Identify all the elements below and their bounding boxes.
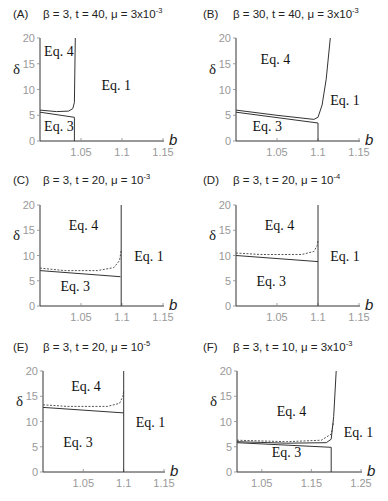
region-label: Eq. 1 — [136, 415, 166, 430]
chart-panel-d: 051015201.051.11.15bδEq. 4Eq. 1Eq. 3 — [209, 199, 373, 323]
series-boundary-dashed — [237, 422, 334, 442]
chart-panel-b: 051015201.051.11.15bδEq. 4Eq. 1Eq. 3 — [209, 32, 373, 158]
y-tick-label: 20 — [26, 365, 38, 377]
y-axis-label: δ — [210, 393, 217, 409]
x-tick-label: 1.1 — [114, 311, 129, 323]
region-label: Eq. 1 — [102, 78, 132, 93]
y-tick-label: 5 — [32, 441, 38, 453]
y-axis-label: δ — [16, 393, 23, 409]
x-tick-label: 1.05 — [266, 311, 287, 323]
chart-panel-c: 051015201.051.11.15bδEq. 4Eq. 1Eq. 3 — [13, 199, 177, 323]
y-tick-label: 0 — [226, 466, 232, 478]
x-tick-label: 1.05 — [70, 311, 91, 323]
y-tick-label: 15 — [26, 390, 38, 402]
y-axis-label: δ — [209, 227, 216, 243]
y-tick-label: 15 — [220, 390, 232, 402]
y-tick-label: 20 — [23, 199, 35, 211]
series-boundary-solid — [40, 271, 120, 277]
x-axis-label: b — [169, 131, 177, 148]
region-label: Eq. 3 — [257, 274, 287, 289]
series-boundary-solid — [43, 407, 124, 413]
chart-panel-f: 051015201.051.151.25bδEq. 4Eq. 1Eq. 3 — [210, 365, 375, 489]
region-label: Eq. 3 — [252, 119, 282, 134]
region-label: Eq. 4 — [277, 404, 307, 419]
region-label: Eq. 1 — [330, 93, 360, 108]
series-boundary-dashed — [236, 240, 318, 254]
x-tick-label: 1.15 — [301, 477, 322, 489]
x-tick-label: 1.05 — [73, 477, 94, 489]
y-tick-label: 10 — [219, 250, 231, 262]
region-label: Eq. 3 — [61, 279, 91, 294]
y-tick-label: 20 — [219, 32, 231, 44]
y-tick-label: 5 — [226, 441, 232, 453]
chart-panel-a: 051015201.051.11.15bδEq. 4Eq. 1Eq. 3 — [13, 32, 177, 158]
region-label: Eq. 3 — [44, 119, 74, 134]
y-axis-label: δ — [209, 61, 216, 77]
y-tick-label: 5 — [29, 109, 35, 121]
series-boundary-dashed — [40, 250, 121, 270]
y-tick-label: 5 — [225, 109, 231, 121]
x-axis-label: b — [169, 296, 177, 313]
y-tick-label: 20 — [219, 199, 231, 211]
y-tick-label: 0 — [225, 135, 231, 147]
y-tick-label: 10 — [219, 84, 231, 96]
y-tick-label: 20 — [23, 32, 35, 44]
y-tick-label: 10 — [23, 250, 35, 262]
figure-canvas: 051015201.051.11.15bδEq. 4Eq. 1Eq. 30510… — [0, 0, 388, 501]
series-boundary-solid-upper — [236, 38, 330, 119]
region-label: Eq. 4 — [71, 379, 101, 394]
y-tick-label: 0 — [32, 466, 38, 478]
region-label: Eq. 3 — [63, 435, 93, 450]
x-tick-label: 1.1 — [310, 311, 325, 323]
x-axis-label: b — [365, 131, 373, 148]
region-label: Eq. 4 — [44, 44, 74, 59]
x-axis-label: b — [170, 462, 178, 479]
x-tick-label: 1.05 — [266, 146, 287, 158]
region-label: Eq. 4 — [261, 52, 291, 67]
y-axis-label: δ — [13, 61, 20, 77]
y-tick-label: 5 — [29, 275, 35, 287]
y-tick-label: 0 — [29, 300, 35, 312]
region-label: Eq. 4 — [69, 218, 99, 233]
region-label: Eq. 1 — [344, 425, 374, 440]
y-tick-label: 10 — [23, 84, 35, 96]
x-tick-label: 1.05 — [70, 146, 91, 158]
x-tick-label: 1.1 — [116, 477, 131, 489]
region-label: Eq. 1 — [330, 249, 360, 264]
y-tick-label: 5 — [225, 275, 231, 287]
x-tick-label: 1.1 — [310, 146, 325, 158]
y-tick-label: 10 — [220, 416, 232, 428]
region-label: Eq. 4 — [265, 218, 295, 233]
y-tick-label: 20 — [220, 365, 232, 377]
y-tick-label: 10 — [26, 416, 38, 428]
x-tick-label: 1.05 — [251, 477, 272, 489]
region-label: Eq. 3 — [272, 445, 302, 460]
y-tick-label: 15 — [219, 58, 231, 70]
region-label: Eq. 1 — [134, 249, 164, 264]
y-tick-label: 15 — [219, 224, 231, 236]
y-tick-label: 15 — [23, 224, 35, 236]
x-axis-label: b — [367, 462, 375, 479]
series-boundary-solid — [236, 256, 318, 262]
y-tick-label: 0 — [225, 300, 231, 312]
y-tick-label: 15 — [23, 58, 35, 70]
chart-panel-e: 051015201.051.11.15bδEq. 4Eq. 1Eq. 3 — [16, 365, 178, 489]
x-tick-label: 1.1 — [114, 146, 129, 158]
y-tick-label: 0 — [29, 135, 35, 147]
x-axis-label: b — [365, 296, 373, 313]
series-boundary-solid-lower — [40, 112, 74, 117]
y-axis-label: δ — [13, 227, 20, 243]
